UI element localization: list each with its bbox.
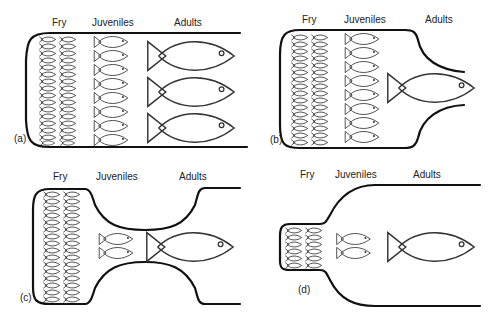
panel-d: Fry Juveniles Adults (d) [280, 169, 480, 306]
panel-b: Fry Juveniles Adults (b) [270, 14, 474, 148]
juvenile-school [94, 36, 128, 145]
panel-label-b: (b) [270, 134, 282, 145]
label-juveniles: Juveniles [344, 14, 386, 25]
label-adults: Adults [174, 17, 202, 28]
fry-school [43, 192, 79, 302]
channel-wall [26, 33, 247, 147]
panel-c: Fry Juveniles Adults (c) [20, 171, 240, 304]
label-adults: Adults [179, 171, 207, 182]
label-fry: Fry [52, 17, 66, 28]
juvenile-school [337, 233, 371, 258]
label-fry: Fry [302, 14, 316, 25]
panel-label-d: (d) [298, 284, 310, 295]
juvenile-school [99, 233, 133, 258]
adult-fish [147, 233, 233, 262]
panel-a: Fry Juveniles Adults (a) [14, 17, 247, 147]
fry-school [291, 35, 327, 145]
label-juveniles: Juveniles [96, 171, 138, 182]
juvenile-school [345, 33, 379, 142]
habitat-diagram: Fry Juveniles Adults (a) [0, 0, 495, 318]
panel-label-c: (c) [20, 292, 32, 303]
label-fry: Fry [53, 171, 67, 182]
label-juveniles: Juveniles [92, 17, 134, 28]
label-juveniles: Juveniles [335, 169, 377, 180]
adult-fish [148, 42, 234, 143]
label-adults: Adults [425, 14, 453, 25]
fry-school [285, 228, 321, 268]
channel-wall [280, 30, 464, 148]
adult-fish [388, 74, 474, 103]
adult-fish [388, 233, 474, 262]
panel-label-a: (a) [14, 133, 26, 144]
label-fry: Fry [300, 169, 314, 180]
fry-school [39, 37, 75, 146]
label-adults: Adults [413, 169, 441, 180]
